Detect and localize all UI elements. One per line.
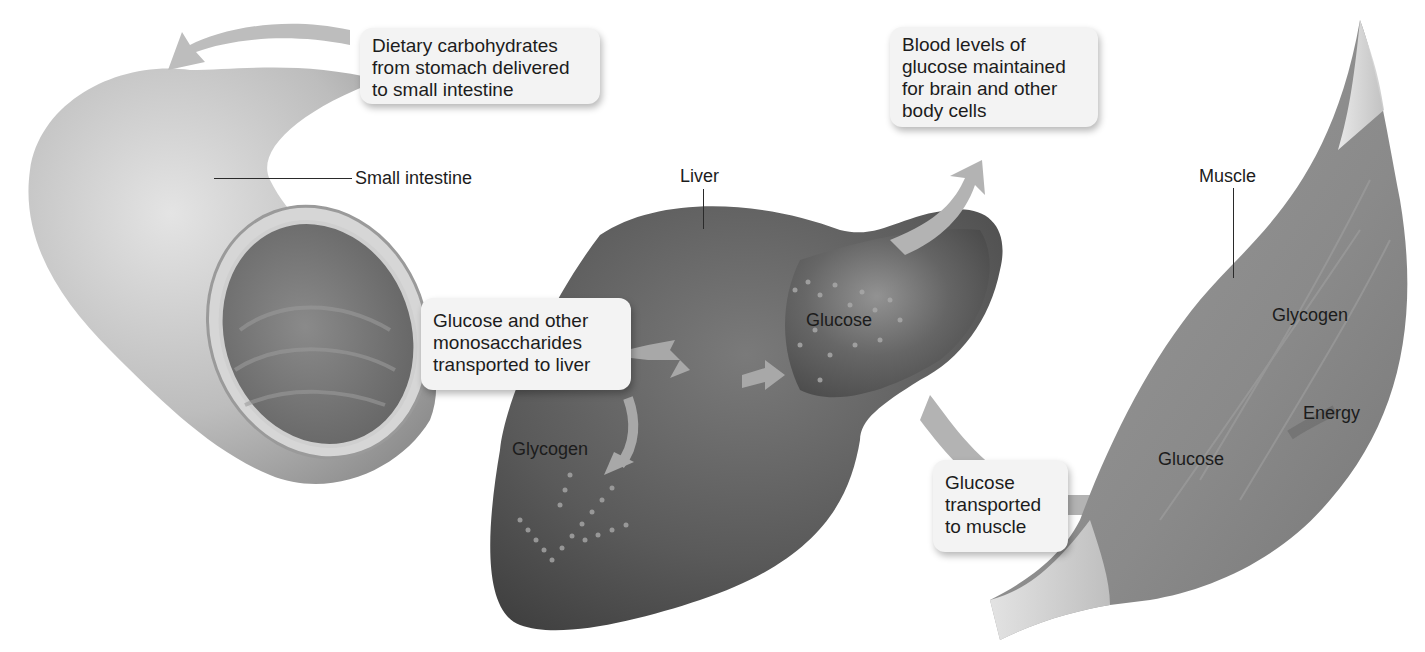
label-liver: Liver xyxy=(680,166,719,186)
liver-leader-line xyxy=(703,189,704,229)
label-muscle: Muscle xyxy=(1199,166,1256,186)
small-intestine-illustration xyxy=(28,68,463,490)
label-small-intestine: Small intestine xyxy=(355,168,472,188)
callout-glucose-to-muscle: Glucose transported to muscle xyxy=(933,460,1068,552)
label-liver-glucose: Glucose xyxy=(806,310,872,330)
callout-blood-glucose: Blood levels of glucose maintained for b… xyxy=(890,27,1098,127)
label-liver-glycogen: Glycogen xyxy=(512,439,588,459)
muscle-leader-line xyxy=(1233,188,1234,278)
arrow-from-stomach xyxy=(168,24,350,70)
callout-dietary-carbohydrates: Dietary carbohydrates from stomach deliv… xyxy=(360,28,600,104)
small-intestine-leader-line xyxy=(214,178,352,179)
label-muscle-glycogen: Glycogen xyxy=(1272,305,1348,325)
label-muscle-energy: Energy xyxy=(1303,403,1360,423)
callout-glucose-to-liver: Glucose and other monosaccharides transp… xyxy=(421,298,631,390)
label-muscle-glucose: Glucose xyxy=(1158,449,1224,469)
diagram-artwork xyxy=(0,0,1425,652)
